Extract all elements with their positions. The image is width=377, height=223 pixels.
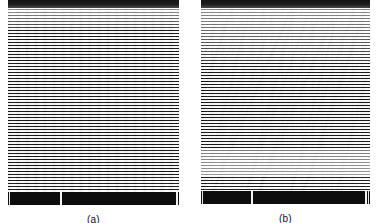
- scale-bar-tick: [176, 192, 178, 205]
- panel-caption-a: (a): [8, 214, 179, 223]
- micrograph-image-b: [201, 0, 370, 191]
- panel-caption-b: (b): [201, 213, 370, 223]
- scanline-overlay-b: [201, 0, 370, 191]
- scale-bar-edge-left: [202, 191, 203, 204]
- scale-bar-tick: [60, 192, 62, 205]
- panel-b: (b): [201, 0, 370, 223]
- scale-bar-edge-right: [368, 191, 369, 204]
- panel-a: (a): [8, 0, 179, 223]
- figure-container: (a) (b): [0, 0, 377, 223]
- micrograph-image-a: [8, 0, 179, 192]
- scale-bar-tick: [251, 191, 253, 204]
- scale-bar-a: [8, 192, 179, 205]
- scale-bar-edge-left: [9, 192, 10, 205]
- scanline-overlay-a: [8, 0, 179, 192]
- scale-bar-tick: [365, 191, 367, 204]
- scale-bar-b: [201, 191, 370, 204]
